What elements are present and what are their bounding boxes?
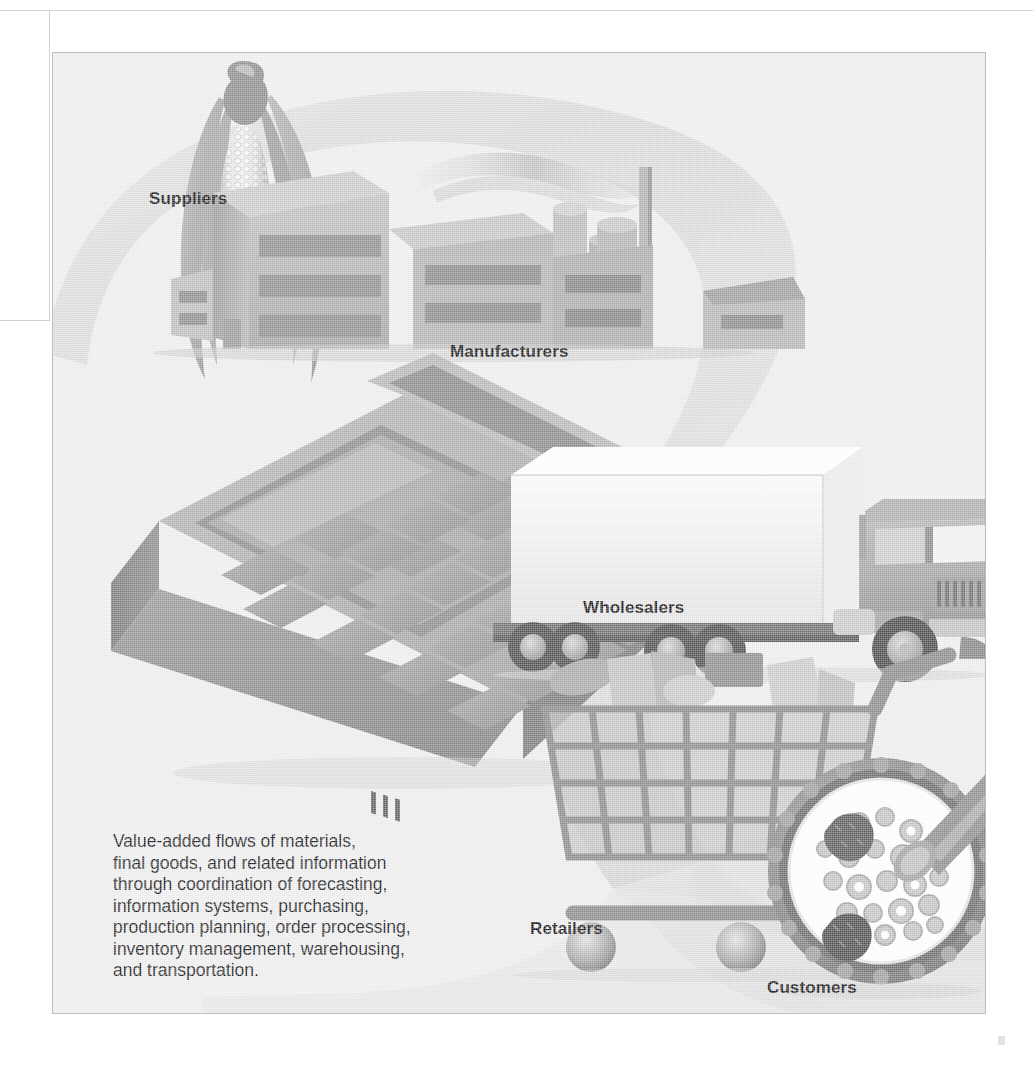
node-label-customers: Customers — [767, 978, 857, 998]
scan-edge-line-left-bottom — [0, 320, 50, 321]
scan-artifact-speck — [998, 1036, 1005, 1045]
cereal-bowl-group — [767, 757, 985, 999]
node-label-suppliers: Suppliers — [149, 189, 227, 209]
node-label-manufacturers: Manufacturers — [450, 342, 568, 362]
figure-panel: Suppliers Manufacturers Wholesalers Reta… — [52, 52, 986, 1014]
scan-edge-line-top — [0, 10, 1033, 11]
node-label-wholesalers: Wholesalers — [583, 598, 684, 618]
figure-caption: Value-added flows of materials, final go… — [113, 831, 543, 982]
scan-edge-line-left — [49, 11, 50, 321]
